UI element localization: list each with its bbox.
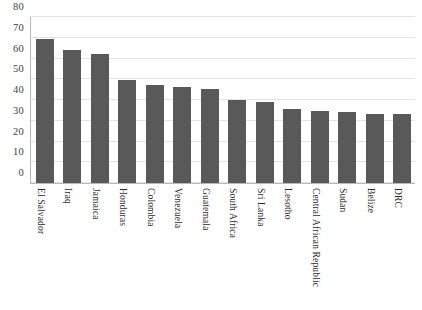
x-axis-label: Jamaica [91, 186, 109, 306]
bar-slot [91, 17, 109, 183]
x-axis-label: Belize [366, 186, 384, 306]
x-axis-label-text: South Africa [228, 188, 237, 238]
x-axis-category-labels: El SalvadorIraqJamaicaHondurasColombiaVe… [30, 186, 415, 308]
bar-slot [283, 17, 301, 183]
y-tick-label: 30 [0, 106, 24, 116]
bar [393, 114, 411, 184]
bar [36, 39, 54, 183]
x-axis-label: DRC [393, 186, 411, 306]
x-axis-line [30, 183, 415, 184]
y-tick-label: 20 [0, 127, 24, 137]
x-axis-label: Central African Republic [311, 186, 329, 306]
bar-chart: 01020304050607080 El SalvadorIraqJamaica… [0, 0, 422, 310]
x-axis-label-text: El Salvador [36, 188, 45, 234]
y-tick-label: 70 [0, 23, 24, 33]
x-axis-label-text: DRC [393, 188, 402, 208]
y-tick-label: 10 [0, 147, 24, 157]
x-axis-label-text: Colombia [146, 188, 155, 227]
x-axis-label: South Africa [228, 186, 246, 306]
y-tick-label: 40 [0, 85, 24, 95]
x-axis-label: Colombia [146, 186, 164, 306]
bar [228, 100, 246, 183]
x-axis-label: El Salvador [36, 186, 54, 306]
x-axis-label-text: Iraq [63, 188, 72, 204]
bar-slot [146, 17, 164, 183]
y-tick-label: 60 [0, 44, 24, 54]
x-axis-label: Honduras [118, 186, 136, 306]
bar-slot [393, 17, 411, 183]
bar [201, 89, 219, 183]
bar-slot [338, 17, 356, 183]
y-tick-label: 0 [0, 168, 24, 178]
bar [118, 80, 136, 183]
bar [173, 87, 191, 183]
x-axis-label-text: Honduras [118, 188, 127, 226]
x-axis-label-text: Guatemala [201, 188, 210, 231]
x-axis-label: Guatemala [201, 186, 219, 306]
y-tick-label: 80 [0, 2, 24, 12]
bar-slot [173, 17, 191, 183]
bar [146, 85, 164, 183]
x-axis-label-text: Venezuela [173, 188, 182, 228]
x-axis-label-text: Jamaica [91, 188, 100, 220]
bar-slot [36, 17, 54, 183]
x-axis-label-text: Central African Republic [311, 188, 320, 287]
x-axis-label: Sudan [338, 186, 356, 306]
bars-layer [30, 17, 415, 183]
bar [63, 50, 81, 183]
bar [283, 109, 301, 183]
x-axis-label-text: Belize [366, 188, 375, 213]
bar-slot [118, 17, 136, 183]
bar [256, 102, 274, 183]
bar-slot [366, 17, 384, 183]
bar-slot [63, 17, 81, 183]
bar-slot [201, 17, 219, 183]
x-axis-label: Sri Lanka [256, 186, 274, 306]
x-axis-label: Iraq [63, 186, 81, 306]
x-axis-label-text: Sudan [338, 188, 347, 213]
x-axis-label-text: Lesotho [283, 188, 292, 220]
bar [338, 112, 356, 183]
bar [311, 111, 329, 183]
bar [91, 54, 109, 183]
y-tick-label: 50 [0, 64, 24, 74]
bar-slot [256, 17, 274, 183]
x-axis-label: Lesotho [283, 186, 301, 306]
bar [366, 114, 384, 184]
y-axis-tick-labels: 01020304050607080 [0, 17, 27, 183]
bar-slot [311, 17, 329, 183]
bar-slot [228, 17, 246, 183]
x-axis-label-text: Sri Lanka [256, 188, 265, 227]
x-axis-label: Venezuela [173, 186, 191, 306]
